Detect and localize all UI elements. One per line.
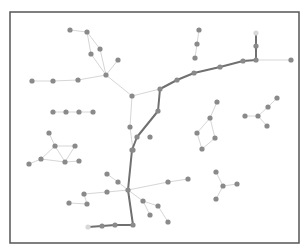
graph-node-e3[interactable] <box>194 130 199 135</box>
graph-node-f4[interactable] <box>255 113 260 118</box>
graph-node-hub2[interactable] <box>129 93 134 98</box>
graph-node-e1[interactable] <box>214 99 219 104</box>
graph-node-p1[interactable] <box>99 223 104 228</box>
graph-node-j4[interactable] <box>213 196 218 201</box>
graph-node-p12[interactable] <box>240 58 245 63</box>
graph-node-h5[interactable] <box>84 201 89 206</box>
graph-node-r2[interactable] <box>63 109 68 114</box>
graph-node-i5[interactable] <box>147 212 152 217</box>
graph-node-g3[interactable] <box>72 143 77 148</box>
graph-node-p6[interactable] <box>134 134 139 139</box>
graph-node-e4[interactable] <box>212 135 217 140</box>
graph-node-f5[interactable] <box>264 123 269 128</box>
graph-node-d3[interactable] <box>130 147 135 152</box>
graph-node-r4[interactable] <box>90 109 95 114</box>
graph-node-j1[interactable] <box>213 169 218 174</box>
graph-node-h4[interactable] <box>104 189 109 194</box>
graph-node-p14[interactable] <box>253 43 258 48</box>
graph-node-c3[interactable] <box>192 55 197 60</box>
graph-node-p0[interactable] <box>85 224 90 229</box>
graph-node-p10[interactable] <box>191 70 196 75</box>
graph-node-g2[interactable] <box>52 143 57 148</box>
graph-node-a7[interactable] <box>50 78 55 83</box>
network-graph-canvas <box>0 0 307 252</box>
graph-node-d2[interactable] <box>147 134 152 139</box>
graph-node-f2[interactable] <box>265 104 270 109</box>
graph-node-a1[interactable] <box>67 27 72 32</box>
graph-node-h1[interactable] <box>104 171 109 176</box>
graph-node-c1[interactable] <box>196 27 201 32</box>
graph-node-a6[interactable] <box>75 77 80 82</box>
graph-node-a4[interactable] <box>97 46 102 51</box>
graph-node-i2[interactable] <box>185 176 190 181</box>
graph-node-a8[interactable] <box>29 78 34 83</box>
graph-node-h2[interactable] <box>115 179 120 184</box>
graph-node-i4[interactable] <box>155 203 160 208</box>
graph-node-r1[interactable] <box>50 109 55 114</box>
graph-node-p2[interactable] <box>112 222 117 227</box>
graph-node-e2[interactable] <box>207 115 212 120</box>
graph-node-i1[interactable] <box>165 179 170 184</box>
graph-node-p15[interactable] <box>253 30 258 35</box>
graph-node-a5[interactable] <box>115 57 120 62</box>
graph-node-j3[interactable] <box>234 181 239 186</box>
graph-node-g6[interactable] <box>76 158 81 163</box>
graph-node-f1[interactable] <box>274 95 279 100</box>
graph-node-i3[interactable] <box>140 198 145 203</box>
graph-node-g1[interactable] <box>46 130 51 135</box>
graph-node-b1[interactable] <box>288 57 293 62</box>
graph-node-p4[interactable] <box>125 187 130 192</box>
graph-node-i6[interactable] <box>165 219 170 224</box>
graph-node-g7[interactable] <box>26 161 31 166</box>
graph-node-p13[interactable] <box>253 57 258 62</box>
graph-node-a3[interactable] <box>88 51 93 56</box>
graph-node-p7[interactable] <box>155 108 160 113</box>
graph-node-hub1[interactable] <box>103 72 108 77</box>
graph-node-g5[interactable] <box>62 159 67 164</box>
graph-node-p11[interactable] <box>217 64 222 69</box>
graph-node-a2[interactable] <box>84 29 89 34</box>
graph-node-f3[interactable] <box>242 113 247 118</box>
graph-node-h6[interactable] <box>66 200 71 205</box>
graph-node-p8[interactable] <box>157 86 162 91</box>
graph-node-j2[interactable] <box>220 183 225 188</box>
graph-node-e5[interactable] <box>199 146 204 151</box>
graph-node-d1[interactable] <box>127 124 132 129</box>
graph-node-p3[interactable] <box>130 222 135 227</box>
graph-node-h3[interactable] <box>81 191 86 196</box>
graph-node-p9[interactable] <box>174 77 179 82</box>
graph-node-g4[interactable] <box>38 156 43 161</box>
graph-node-r3[interactable] <box>76 109 81 114</box>
graph-node-c2[interactable] <box>194 41 199 46</box>
